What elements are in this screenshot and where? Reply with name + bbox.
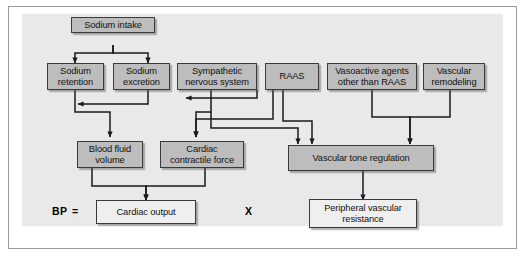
connector-layer: [0, 0, 525, 257]
node-sympathetic-nervous-system-label-line2: nervous system: [185, 77, 249, 87]
node-vasoactive-agents-label-line1: Vasoactive agents: [335, 66, 409, 76]
edge-retention-to-blood-fluid: [75, 90, 110, 137]
edge-remodeling-to-vascular-tone: [410, 90, 450, 144]
edge-excretion-to-retention: [78, 90, 148, 104]
node-vascular-tone-regulation[interactable]: Vascular tone regulation: [288, 145, 434, 171]
node-sodium-retention[interactable]: Sodiumretention: [47, 63, 104, 90]
edge-sympathetic-to-vascular-tone: [211, 112, 298, 144]
node-peripheral-vascular-resistance-label-line1: Peripheral vascular: [324, 203, 402, 213]
node-blood-fluid-volume-label-line2: volume: [95, 155, 124, 165]
node-sodium-excretion-label-line2: excretion: [123, 77, 160, 87]
edge-intake-to-excretion: [113, 45, 148, 63]
edge-raas-to-cardiac-force: [196, 90, 273, 137]
node-blood-fluid-volume[interactable]: Blood fluidvolume: [77, 141, 143, 168]
node-sodium-retention-label-line1: Sodium: [60, 66, 91, 76]
edge-cardiac-force-to-cardiac-output: [146, 168, 205, 200]
node-vasoactive-agents-label-line2: other than RAAS: [338, 77, 406, 87]
multiply-sign: X: [245, 205, 252, 217]
node-peripheral-vascular-resistance[interactable]: Peripheral vascularresistance: [309, 199, 417, 228]
node-peripheral-vascular-resistance-label-line2: resistance: [342, 214, 383, 224]
node-vasoactive-agents[interactable]: Vasoactive agentsother than RAAS: [327, 63, 417, 90]
node-sodium-excretion[interactable]: Sodiumexcretion: [113, 63, 170, 90]
equals-sign: =: [72, 205, 78, 217]
edge-intake-to-retention: [75, 45, 113, 63]
node-vascular-remodeling-label-line2: remodeling: [432, 77, 477, 87]
bp-label: BP: [52, 205, 67, 217]
node-cardiac-output-label: Cardiac output: [116, 207, 175, 218]
node-raas-label: RAAS: [280, 71, 305, 82]
node-cardiac-contractile-force[interactable]: Cardiaccontractile force: [160, 141, 244, 168]
node-vascular-remodeling-label-line1: Vascular: [437, 66, 472, 76]
node-cardiac-contractile-force-label-line1: Cardiac: [186, 144, 217, 154]
node-cardiac-output[interactable]: Cardiac output: [96, 200, 196, 224]
node-sodium-retention-label-line2: retention: [58, 77, 93, 87]
node-blood-fluid-volume-label-line1: Blood fluid: [89, 144, 131, 154]
node-raas[interactable]: RAAS: [265, 63, 319, 90]
edge-blood-fluid-to-cardiac-output: [92, 168, 146, 200]
node-cardiac-contractile-force-label-line2: contractile force: [170, 155, 234, 165]
node-sodium-excretion-label-line1: Sodium: [126, 66, 157, 76]
flowchart-figure: Sodium intake Sodiumretention Sodiumexcr…: [0, 0, 525, 257]
node-sodium-intake[interactable]: Sodium intake: [71, 17, 155, 33]
edge-vasoactive-to-vascular-tone: [372, 90, 410, 144]
node-sympathetic-nervous-system[interactable]: Sympatheticnervous system: [177, 63, 257, 90]
node-vascular-remodeling[interactable]: Vascularremodeling: [423, 63, 485, 90]
edge-raas-to-sympathetic: [186, 90, 257, 98]
node-sodium-intake-label: Sodium intake: [84, 20, 142, 31]
node-sympathetic-nervous-system-label-line1: Sympathetic: [192, 66, 242, 76]
edge-sympathetic-to-cardiac-force: [196, 90, 211, 137]
node-vascular-tone-regulation-label: Vascular tone regulation: [312, 153, 409, 164]
